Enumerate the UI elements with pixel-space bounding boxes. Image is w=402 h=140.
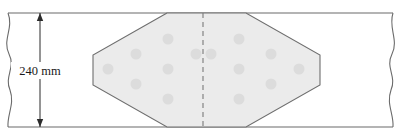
diagram-container: 240 mm <box>0 0 402 140</box>
dot-marker <box>234 64 245 75</box>
dimension-label: 240 mm <box>19 64 61 78</box>
arrowhead-down-icon <box>37 119 43 127</box>
dot-marker <box>163 64 174 75</box>
left-break-line-icon <box>7 13 12 127</box>
dot-marker <box>234 34 245 45</box>
dot-marker <box>294 64 305 75</box>
dot-marker <box>163 94 174 105</box>
dot-marker <box>234 94 245 105</box>
right-break-line-icon <box>389 13 394 127</box>
dot-marker <box>191 49 202 60</box>
arrowhead-up-icon <box>37 13 43 21</box>
dot-marker <box>266 79 277 90</box>
hexagonal-shaded-zone <box>93 13 320 127</box>
dot-marker <box>266 49 277 60</box>
dot-marker <box>206 49 217 60</box>
dot-marker <box>103 64 114 75</box>
dot-marker <box>131 49 142 60</box>
dot-marker <box>163 34 174 45</box>
plate-diagram: 240 mm <box>0 0 402 140</box>
dot-marker <box>131 79 142 90</box>
dimension-240mm: 240 mm <box>11 13 69 127</box>
